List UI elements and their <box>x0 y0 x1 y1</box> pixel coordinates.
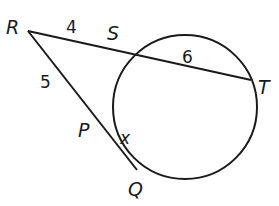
length-rp: 5 <box>40 72 51 92</box>
length-rs: 4 <box>66 17 77 37</box>
label-t: T <box>258 76 271 98</box>
label-r: R <box>6 16 19 38</box>
length-pq: x <box>119 128 131 148</box>
secant-diagram: R S T P Q 4 6 5 x <box>0 0 279 206</box>
label-p: P <box>78 119 90 141</box>
label-q: Q <box>128 178 143 200</box>
label-s: S <box>107 22 119 44</box>
length-st: 6 <box>182 47 193 67</box>
